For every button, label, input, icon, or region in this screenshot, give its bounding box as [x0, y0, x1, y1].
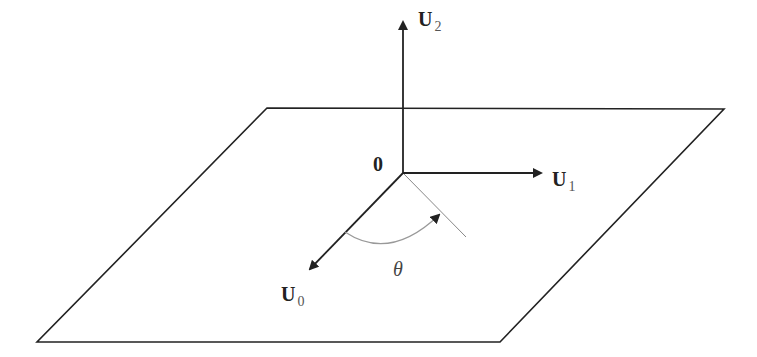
label-u1: U1	[552, 168, 575, 195]
origin-label: 0	[373, 153, 383, 176]
theta-label: θ	[393, 258, 403, 281]
label-u1-main: U	[552, 168, 566, 190]
label-u2: U2	[418, 8, 441, 35]
reference-line	[403, 173, 466, 237]
label-u0-subscript: 0	[297, 294, 304, 309]
label-u0: U0	[281, 283, 304, 310]
label-u1-subscript: 1	[568, 179, 575, 194]
label-u2-subscript: 2	[434, 19, 441, 34]
label-u0-main: U	[281, 283, 295, 305]
label-u2-main: U	[418, 8, 432, 30]
vector-u0-arrow	[310, 173, 403, 269]
diagram-canvas	[0, 0, 757, 357]
plane	[37, 108, 724, 342]
